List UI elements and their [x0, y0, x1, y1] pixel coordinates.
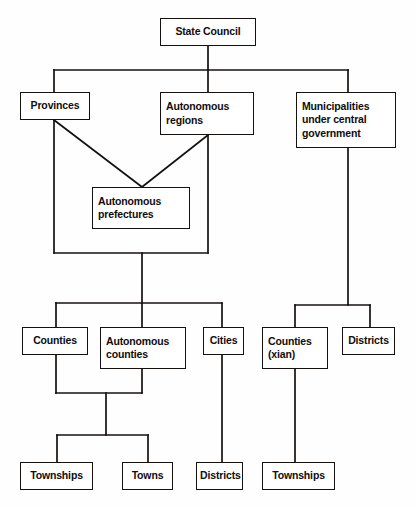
- node-label-municipalities: Municipalities under central government: [297, 100, 374, 141]
- node-label-towns: Towns: [123, 469, 172, 483]
- org-chart-diagram: State CouncilProvincesAutonomous regions…: [0, 0, 415, 508]
- node-label-townships-right: Townships: [263, 469, 334, 483]
- connector-layer: [0, 0, 415, 508]
- node-label-counties: Counties: [23, 334, 87, 348]
- node-cities[interactable]: Cities: [203, 327, 244, 355]
- node-label-autonomous-regions: Autonomous regions: [161, 100, 234, 127]
- node-label-districts-city: Districts: [197, 469, 244, 483]
- node-townships-left[interactable]: Townships: [20, 462, 93, 490]
- node-districts-city[interactable]: Districts: [196, 462, 243, 490]
- node-districts-municipal[interactable]: Districts: [342, 327, 395, 355]
- node-label-districts-municipal: Districts: [343, 334, 394, 348]
- node-label-cities: Cities: [204, 334, 243, 348]
- node-state-council[interactable]: State Council: [160, 18, 256, 46]
- connector-autonomous-regions-diagonal: [142, 135, 208, 187]
- node-townships-right[interactable]: Townships: [262, 462, 335, 490]
- connector-provinces-diagonal: [54, 120, 142, 187]
- node-counties-xian[interactable]: Counties (xian): [262, 327, 328, 369]
- node-provinces[interactable]: Provinces: [20, 92, 90, 120]
- node-label-autonomous-counties: Autonomous counties: [101, 335, 174, 362]
- node-label-provinces: Provinces: [21, 99, 89, 113]
- node-towns[interactable]: Towns: [122, 462, 173, 490]
- node-counties[interactable]: Counties: [22, 327, 88, 355]
- node-autonomous-prefectures[interactable]: Autonomous prefectures: [92, 187, 190, 229]
- node-municipalities[interactable]: Municipalities under central government: [296, 92, 396, 148]
- node-label-counties-xian: Counties (xian): [263, 335, 317, 362]
- node-label-autonomous-prefectures: Autonomous prefectures: [93, 195, 166, 222]
- node-label-state-council: State Council: [161, 25, 255, 39]
- node-autonomous-regions[interactable]: Autonomous regions: [160, 92, 254, 135]
- node-label-townships-left: Townships: [21, 469, 92, 483]
- node-autonomous-counties[interactable]: Autonomous counties: [100, 327, 186, 369]
